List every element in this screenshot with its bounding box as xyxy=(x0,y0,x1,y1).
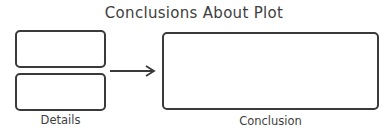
details-box-2 xyxy=(15,73,106,111)
diagram-title: Conclusions About Plot xyxy=(0,4,388,22)
details-label: Details xyxy=(15,113,106,127)
details-box-1 xyxy=(15,30,106,68)
conclusion-label: Conclusion xyxy=(162,114,379,128)
conclusion-box xyxy=(162,32,379,110)
arrow-right-icon xyxy=(108,64,158,78)
